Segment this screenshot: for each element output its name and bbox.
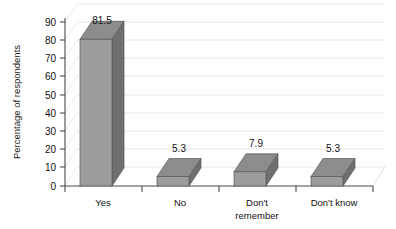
x-category-label-no: No bbox=[174, 197, 186, 208]
bar-chart-3d: 90 80 70 60 50 40 30 20 10 0 Percentage … bbox=[0, 0, 396, 229]
ytick-label-30: 30 bbox=[45, 126, 57, 137]
x-categorylabels-group: Yes No Don't remember Don't know bbox=[95, 197, 357, 221]
bar-dont-know-front-face bbox=[311, 177, 343, 187]
y-axis-title: Percentage of respondents bbox=[11, 45, 22, 159]
bar-value-label-dont-know: 5.3 bbox=[326, 143, 340, 154]
bar-yes-front-face bbox=[80, 39, 112, 186]
bar-no[interactable] bbox=[157, 159, 201, 187]
bar-yes[interactable] bbox=[80, 21, 124, 186]
bar-value-label-dont-remember: 7.9 bbox=[249, 138, 263, 149]
y-tickmarks-group bbox=[60, 22, 65, 186]
floor-right-edge bbox=[373, 167, 385, 186]
depthline-60 bbox=[65, 58, 77, 76]
bar-value-label-no: 5.3 bbox=[172, 143, 186, 154]
depthline-10 bbox=[65, 149, 77, 167]
x-tickmarks-group bbox=[65, 186, 373, 192]
depthline-50 bbox=[65, 76, 77, 95]
x-category-label-dont-remember-line2: remember bbox=[235, 210, 278, 221]
depthline-80 bbox=[65, 22, 77, 40]
ytick-label-10: 10 bbox=[45, 162, 57, 173]
x-category-label-dont-remember-line1: Don't bbox=[246, 197, 268, 208]
ytick-label-80: 80 bbox=[45, 35, 57, 46]
ytick-label-60: 60 bbox=[45, 71, 57, 82]
bar-dont-remember[interactable] bbox=[234, 154, 278, 186]
ytick-label-20: 20 bbox=[45, 144, 57, 155]
x-category-label-dont-know: Don't know bbox=[311, 197, 358, 208]
ytick-label-0: 0 bbox=[50, 181, 56, 192]
depthline-30 bbox=[65, 113, 77, 131]
ytick-label-90: 90 bbox=[45, 17, 57, 28]
x-category-label-yes: Yes bbox=[95, 197, 111, 208]
bar-dont-know[interactable] bbox=[311, 159, 355, 187]
depthline-70 bbox=[65, 40, 77, 58]
depthline-0 bbox=[65, 167, 77, 186]
ytick-label-40: 40 bbox=[45, 108, 57, 119]
bar-no-front-face bbox=[157, 177, 189, 187]
chart-container: 90 80 70 60 50 40 30 20 10 0 Percentage … bbox=[0, 0, 396, 229]
ytick-label-70: 70 bbox=[45, 53, 57, 64]
y-ticklabels-group: 90 80 70 60 50 40 30 20 10 0 bbox=[45, 17, 57, 192]
depthline-20 bbox=[65, 131, 77, 149]
ytick-label-50: 50 bbox=[45, 90, 57, 101]
bar-yes-side-face bbox=[112, 21, 124, 186]
depth-lines-group bbox=[65, 4, 77, 186]
depthline-40 bbox=[65, 95, 77, 113]
depthline-90 bbox=[65, 4, 77, 22]
bar-value-label-yes: 81.5 bbox=[92, 15, 112, 26]
bar-dont-remember-front-face bbox=[234, 172, 266, 186]
